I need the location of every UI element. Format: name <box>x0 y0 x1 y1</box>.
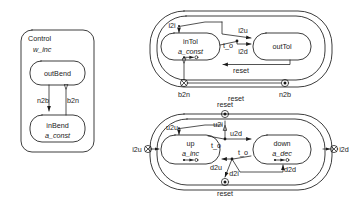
state-inbend-label: inBend <box>46 121 68 130</box>
transition-to-up-label: t_o <box>211 141 221 150</box>
transition-i2d-label: i2d <box>238 47 248 56</box>
transition-u2i-label: u2i <box>213 120 223 129</box>
port-i2u-label: i2u <box>132 145 142 154</box>
port-n2b-label: n2b <box>279 90 291 99</box>
state-down-label: down <box>273 139 290 148</box>
state-up-label: up <box>187 139 195 148</box>
transition-u2u-label: u2u <box>166 123 178 132</box>
state-up-action: a_inc <box>182 149 200 158</box>
state-intol-action: a_const <box>178 47 204 56</box>
control-title: Control <box>28 34 52 43</box>
control-action: w_inc <box>33 45 52 54</box>
state-outtol-ob-label: outTol <box>272 42 292 51</box>
transition-i2i-label: i2i <box>168 21 176 30</box>
panel-outbend: outBend inTol a_const outTol i2i t_o i2u <box>150 11 332 103</box>
transition-d2u-label: d2u <box>210 163 222 172</box>
transition-b2n-label: b2n <box>67 96 79 105</box>
port-reset-top-label: reset <box>217 100 233 109</box>
transition-d2i-label: d2i <box>229 169 239 178</box>
port-reset-bottom-label: reset <box>217 189 233 198</box>
panel-outtol: outTol up a_inc down a_dec u2u <box>132 100 349 198</box>
state-intol-label: inTol <box>183 37 198 46</box>
state-inbend-action: a_const <box>45 131 71 140</box>
panel-control: Control w_inc outBend inBend a_const n2b… <box>21 30 94 152</box>
port-i2d-label: i2d <box>339 145 349 154</box>
diagram-canvas: Control w_inc outBend inBend a_const n2b… <box>0 0 349 207</box>
transition-reset-ob-label: reset <box>233 66 249 75</box>
statechart-svg: Control w_inc outBend inBend a_const n2b… <box>0 0 349 207</box>
state-down-action: a_dec <box>272 149 292 158</box>
transition-u2d-label: u2d <box>230 129 242 138</box>
transition-d2d-label: d2d <box>284 165 296 174</box>
transition-to-down-label: t_o <box>238 148 248 157</box>
transition-to-ob-label: t_o <box>223 41 233 50</box>
transition-n2b-label: n2b <box>37 96 49 105</box>
transition-i2u-label: i2u <box>238 26 248 35</box>
state-outbend-label: outBend <box>44 69 71 78</box>
port-b2n-label: b2n <box>178 90 190 99</box>
